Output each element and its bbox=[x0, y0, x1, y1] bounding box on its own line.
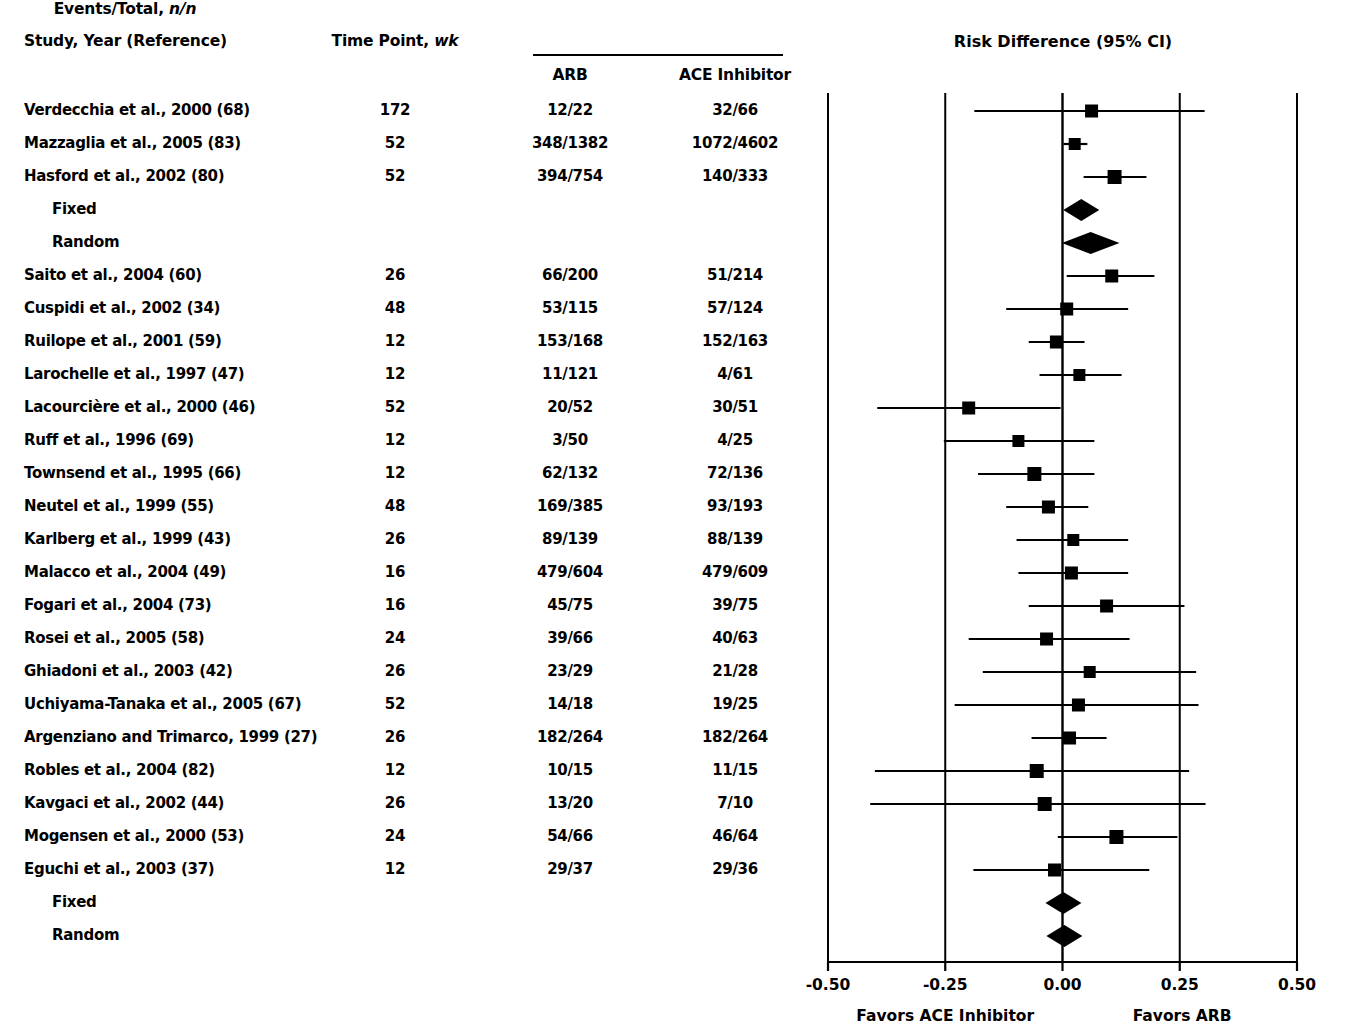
table-row-time-point: 26 bbox=[330, 662, 460, 680]
effect-size-marker bbox=[1048, 864, 1061, 877]
plot-title: Risk Difference (95% CI) bbox=[954, 32, 1172, 51]
table-row-arb-events: 479/604 bbox=[490, 563, 650, 581]
forest-plot-page: Study, Year (Reference) Time Point, wk E… bbox=[0, 0, 1347, 1027]
table-row-time-point: 52 bbox=[330, 134, 460, 152]
column-header-time-point-label: Time Point, bbox=[332, 32, 435, 50]
effect-size-marker bbox=[1109, 830, 1123, 844]
table-row-time-point: 12 bbox=[330, 365, 460, 383]
events-total-divider bbox=[533, 54, 783, 56]
summary-diamond-marker bbox=[1062, 232, 1120, 254]
table-row-ace-events: 182/264 bbox=[640, 728, 830, 746]
table-row-ace-events: 479/609 bbox=[640, 563, 830, 581]
effect-size-marker bbox=[1108, 170, 1122, 184]
column-header-study-label: Study, Year (Reference) bbox=[24, 32, 227, 50]
table-row-study-name: Mogensen et al., 2000 (53) bbox=[24, 827, 244, 845]
favors-ace-inhibitor-label: Favors ACE Inhibitor bbox=[856, 1007, 1034, 1025]
column-header-ace-inhibitor-label: ACE Inhibitor bbox=[679, 66, 791, 84]
axis-tick-label: -0.25 bbox=[923, 976, 968, 994]
table-row-arb-events: 182/264 bbox=[490, 728, 650, 746]
effect-size-marker bbox=[1100, 600, 1113, 613]
table-row-time-point: 16 bbox=[330, 596, 460, 614]
table-row-study-name: Mazzaglia et al., 2005 (83) bbox=[24, 134, 241, 152]
effect-size-marker bbox=[1027, 467, 1041, 481]
axis-tick-label: -0.50 bbox=[806, 976, 851, 994]
column-header-events-total-label: Events/Total, bbox=[54, 0, 169, 18]
table-row-arb-events: 20/52 bbox=[490, 398, 650, 416]
table-row-arb-events: 23/29 bbox=[490, 662, 650, 680]
table-row-time-point: 26 bbox=[330, 266, 460, 284]
table-row-study-name: Fixed bbox=[52, 200, 96, 218]
effect-size-marker bbox=[1073, 369, 1085, 381]
table-row-time-point: 48 bbox=[330, 497, 460, 515]
table-row-study-name: Robles et al., 2004 (82) bbox=[24, 761, 215, 779]
table-row-time-point: 12 bbox=[330, 464, 460, 482]
table-row-study-name: Neutel et al., 1999 (55) bbox=[24, 497, 214, 515]
table-row-arb-events: 54/66 bbox=[490, 827, 650, 845]
axis-tick-label: 0.00 bbox=[1043, 976, 1081, 994]
axis-tick-label: 0.25 bbox=[1161, 976, 1199, 994]
column-header-events-total: Events/Total, n/n bbox=[0, 0, 250, 18]
table-row-time-point: 26 bbox=[330, 530, 460, 548]
effect-size-marker bbox=[962, 402, 975, 415]
effect-size-marker bbox=[1060, 303, 1073, 316]
table-row-time-point: 48 bbox=[330, 299, 460, 317]
table-row-arb-events: 348/1382 bbox=[490, 134, 650, 152]
effect-size-marker bbox=[1105, 270, 1118, 283]
table-row-arb-events: 14/18 bbox=[490, 695, 650, 713]
table-row-arb-events: 169/385 bbox=[490, 497, 650, 515]
table-row-study-name: Lacourcière et al., 2000 (46) bbox=[24, 398, 255, 416]
table-row-ace-events: 46/64 bbox=[640, 827, 830, 845]
table-row-study-name: Eguchi et al., 2003 (37) bbox=[24, 860, 214, 878]
effect-size-marker bbox=[1040, 633, 1053, 646]
table-row-ace-events: 140/333 bbox=[640, 167, 830, 185]
table-row-arb-events: 12/22 bbox=[490, 101, 650, 119]
effect-size-marker bbox=[1072, 699, 1085, 712]
table-row-study-name: Fogari et al., 2004 (73) bbox=[24, 596, 211, 614]
table-row-study-name: Cuspidi et al., 2002 (34) bbox=[24, 299, 220, 317]
column-header-events-total-unit: n/n bbox=[169, 0, 196, 18]
table-row-arb-events: 29/37 bbox=[490, 860, 650, 878]
table-row-study-name: Saito et al., 2004 (60) bbox=[24, 266, 202, 284]
effect-size-marker bbox=[1042, 501, 1055, 514]
summary-diamond-marker bbox=[1063, 199, 1099, 221]
effect-size-marker bbox=[1038, 797, 1052, 811]
table-row-study-name: Townsend et al., 1995 (66) bbox=[24, 464, 241, 482]
table-row-study-name: Ruff et al., 1996 (69) bbox=[24, 431, 194, 449]
table-row-ace-events: 30/51 bbox=[640, 398, 830, 416]
table-row-arb-events: 62/132 bbox=[490, 464, 650, 482]
table-row-study-name: Ghiadoni et al., 2003 (42) bbox=[24, 662, 233, 680]
table-row-time-point: 26 bbox=[330, 728, 460, 746]
axis-tick-label: 0.50 bbox=[1278, 976, 1316, 994]
summary-diamond-marker bbox=[1045, 892, 1081, 914]
column-header-arb-label: ARB bbox=[552, 66, 587, 84]
table-row-arb-events: 394/754 bbox=[490, 167, 650, 185]
effect-size-marker bbox=[1012, 435, 1024, 447]
table-row-ace-events: 7/10 bbox=[640, 794, 830, 812]
table-row-time-point: 52 bbox=[330, 398, 460, 416]
table-row-ace-events: 40/63 bbox=[640, 629, 830, 647]
table-row-study-name: Random bbox=[52, 233, 119, 251]
effect-size-marker bbox=[1067, 534, 1079, 546]
table-row-ace-events: 32/66 bbox=[640, 101, 830, 119]
table-row-ace-events: 93/193 bbox=[640, 497, 830, 515]
table-row-ace-events: 11/15 bbox=[640, 761, 830, 779]
table-row-time-point: 16 bbox=[330, 563, 460, 581]
effect-size-marker bbox=[1063, 732, 1076, 745]
effect-size-marker bbox=[1069, 138, 1081, 150]
table-row-study-name: Uchiyama-Tanaka et al., 2005 (67) bbox=[24, 695, 301, 713]
table-row-arb-events: 3/50 bbox=[490, 431, 650, 449]
table-row-ace-events: 29/36 bbox=[640, 860, 830, 878]
table-row-study-name: Random bbox=[52, 926, 119, 944]
table-row-ace-events: 4/25 bbox=[640, 431, 830, 449]
column-header-study: Study, Year (Reference) bbox=[24, 32, 324, 50]
table-row-time-point: 12 bbox=[330, 761, 460, 779]
table-row-time-point: 12 bbox=[330, 332, 460, 350]
favors-arb-label: Favors ARB bbox=[1133, 1007, 1232, 1025]
table-row-study-name: Rosei et al., 2005 (58) bbox=[24, 629, 204, 647]
table-row-arb-events: 66/200 bbox=[490, 266, 650, 284]
table-row-arb-events: 89/139 bbox=[490, 530, 650, 548]
table-row-ace-events: 4/61 bbox=[640, 365, 830, 383]
table-row-study-name: Malacco et al., 2004 (49) bbox=[24, 563, 226, 581]
table-row-arb-events: 39/66 bbox=[490, 629, 650, 647]
column-header-arb: ARB bbox=[490, 66, 650, 84]
